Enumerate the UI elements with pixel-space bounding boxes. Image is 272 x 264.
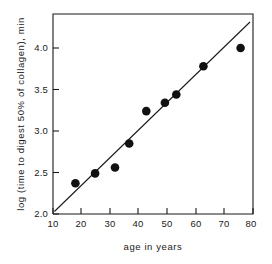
- y-axis-title: log (time to digest 50% of collagen), mi…: [15, 17, 26, 211]
- scatter-plot-figure: 10 20 30 40 50 60 70 80 2.0 2.5 3.0 3.5 …: [0, 0, 272, 264]
- x-tick-label-30: 30: [105, 218, 116, 229]
- x-tick-label-80: 80: [246, 218, 257, 229]
- data-point: [161, 99, 170, 108]
- data-point: [236, 44, 245, 53]
- x-axis-ticks: [53, 208, 253, 214]
- x-tick-label-50: 50: [162, 218, 173, 229]
- regression-line: [54, 22, 250, 212]
- y-tick-label-3-5: 3.5: [34, 84, 48, 95]
- data-point-series: [71, 44, 245, 188]
- data-point: [142, 107, 151, 116]
- data-point: [172, 90, 181, 99]
- x-tick-label-60: 60: [191, 218, 202, 229]
- data-point: [199, 62, 208, 71]
- y-axis-ticks: [53, 48, 59, 214]
- x-tick-label-40: 40: [133, 218, 144, 229]
- x-axis-title: age in years: [124, 241, 183, 252]
- data-point: [111, 163, 120, 172]
- y-tick-label-4-0: 4.0: [34, 42, 48, 53]
- data-point: [91, 169, 100, 178]
- y-tick-label-2-5: 2.5: [34, 167, 48, 178]
- x-tick-label-10: 10: [48, 218, 59, 229]
- data-point: [71, 179, 80, 188]
- x-tick-label-70: 70: [219, 218, 230, 229]
- plot-canvas: 10 20 30 40 50 60 70 80 2.0 2.5 3.0 3.5 …: [0, 0, 272, 264]
- x-tick-label-20: 20: [76, 218, 87, 229]
- y-tick-label-3-0: 3.0: [34, 125, 48, 136]
- y-tick-label-2-0: 2.0: [34, 208, 48, 219]
- data-point: [125, 139, 134, 148]
